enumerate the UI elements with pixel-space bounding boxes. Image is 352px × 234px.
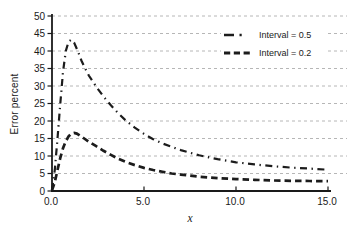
x-tick-label: 10.0 — [225, 196, 245, 207]
legend: Interval = 0.5 Interval = 0.2 — [221, 26, 326, 62]
y-tick-label: 50 — [34, 11, 46, 22]
data-series — [52, 40, 328, 191]
x-tick-label: 0.0 — [44, 196, 58, 207]
series-line-1 — [52, 133, 328, 190]
y-tick-label: 35 — [34, 63, 46, 74]
y-tick-label: 0 — [39, 186, 45, 197]
legend-item-interval-0-5: Interval = 0.5 — [223, 27, 324, 42]
error-percent-chart: 051015202530354045500.05.010.015.0 Error… — [0, 0, 352, 234]
y-axis-title: Error percent — [9, 74, 20, 135]
series-line-0 — [52, 40, 328, 190]
y-tick-label: 10 — [34, 151, 46, 162]
y-tick-label: 5 — [39, 168, 45, 179]
x-tick-label: 15.0 — [317, 196, 337, 207]
x-axis-title: x — [184, 212, 196, 224]
y-tick-label: 40 — [34, 46, 46, 57]
legend-label-interval-0-2: Interval = 0.2 — [259, 48, 311, 58]
dashed-line-sample-icon — [223, 50, 252, 56]
y-tick-label: 20 — [34, 116, 46, 127]
legend-label-interval-0-5: Interval = 0.5 — [259, 30, 311, 40]
dash-dot-line-sample-icon — [223, 32, 252, 38]
legend-item-interval-0-2: Interval = 0.2 — [223, 45, 324, 60]
y-tick-label: 45 — [34, 28, 46, 39]
y-tick-label: 15 — [34, 133, 46, 144]
y-tick-label: 25 — [34, 98, 46, 109]
x-tick-label: 5.0 — [136, 196, 150, 207]
y-tick-label: 30 — [34, 81, 46, 92]
